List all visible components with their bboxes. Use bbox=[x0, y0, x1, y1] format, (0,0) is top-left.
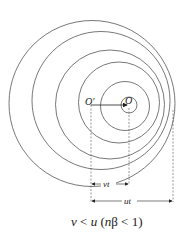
wavefront-diagram: O′ O vt ut v < u (nβ < 1) bbox=[0, 0, 186, 241]
wavefront-circle-3 bbox=[56, 50, 165, 159]
wavefront-circle-5 bbox=[101, 82, 150, 131]
o-label: O bbox=[125, 95, 132, 106]
vt-label: vt bbox=[103, 179, 110, 189]
ut-label: ut bbox=[124, 196, 132, 206]
o-prime-label: O′ bbox=[85, 96, 95, 107]
caption: v < u (nβ < 1) bbox=[71, 214, 143, 229]
